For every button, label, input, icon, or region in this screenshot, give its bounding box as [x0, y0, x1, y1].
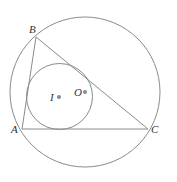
label-a: A: [10, 123, 18, 135]
label-i: I: [49, 91, 55, 103]
label-o: O: [74, 86, 82, 98]
incenter-dot: [57, 95, 61, 99]
geometry-diagram: B A C I O: [0, 0, 177, 182]
label-c: C: [151, 123, 159, 135]
triangle-abc: [22, 37, 148, 129]
circumcenter-dot: [83, 90, 87, 94]
label-b: B: [29, 23, 36, 35]
